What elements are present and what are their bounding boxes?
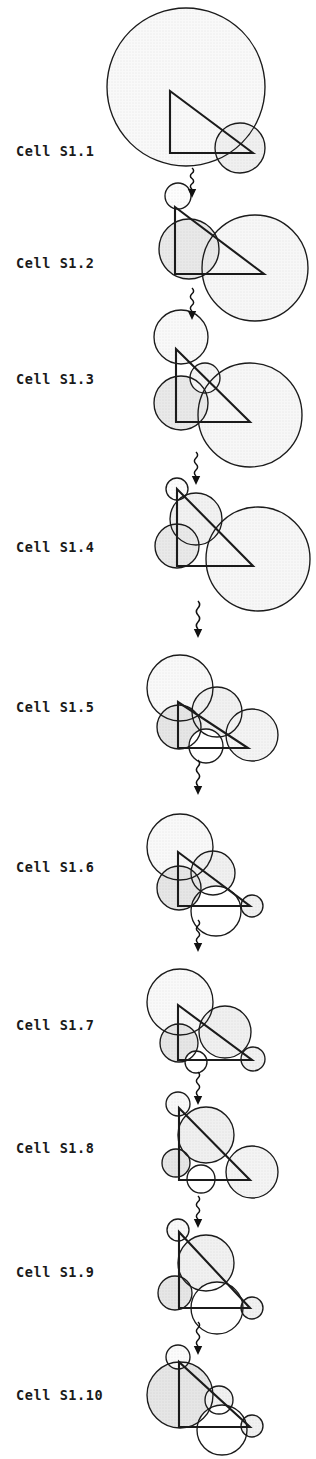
cell-label-s1-1: Cell S1.1 xyxy=(16,145,95,159)
cell-label-s1-9: Cell S1.9 xyxy=(16,1266,95,1280)
cell-label-s1-3: Cell S1.3 xyxy=(16,373,95,387)
cell-sequence-figure: Cell S1.1Cell S1.2Cell S1.3Cell S1.4Cell… xyxy=(0,0,316,1459)
cell-label-s1-5: Cell S1.5 xyxy=(16,701,95,715)
cell-label-s1-10: Cell S1.10 xyxy=(16,1389,103,1403)
cell-label-s1-2: Cell S1.2 xyxy=(16,257,95,271)
cell-label-s1-8: Cell S1.8 xyxy=(16,1142,95,1156)
figure-canvas xyxy=(0,0,316,1459)
cell-label-s1-4: Cell S1.4 xyxy=(16,541,95,555)
cell-label-s1-7: Cell S1.7 xyxy=(16,1019,95,1033)
cell-label-s1-6: Cell S1.6 xyxy=(16,861,95,875)
